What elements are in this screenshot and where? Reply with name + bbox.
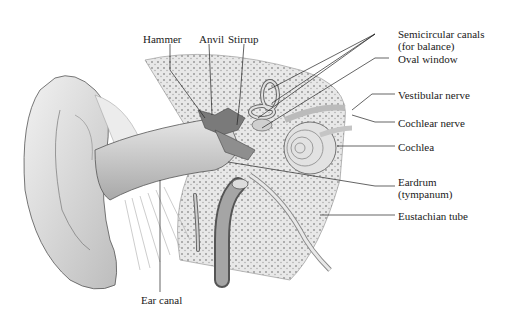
label-eustachian-tube: Eustachian tube bbox=[398, 210, 468, 222]
label-semicircular-canals-note: (for balance) bbox=[398, 40, 455, 52]
label-stirrup: Stirrup bbox=[228, 33, 259, 45]
label-ear-canal: Ear canal bbox=[141, 294, 182, 306]
label-oval-window: Oval window bbox=[398, 53, 458, 65]
label-semicircular-canals: Semicircular canals bbox=[398, 28, 484, 40]
label-cochlear-nerve: Cochlear nerve bbox=[398, 117, 465, 129]
label-anvil: Anvil bbox=[199, 33, 224, 45]
label-eardrum-note: (tympanum) bbox=[398, 188, 452, 200]
label-hammer: Hammer bbox=[143, 33, 181, 45]
label-cochlea: Cochlea bbox=[398, 141, 434, 153]
label-vestibular-nerve: Vestibular nerve bbox=[398, 89, 470, 101]
label-eardrum: Eardrum bbox=[398, 176, 436, 188]
ear-anatomy-diagram: Hammer Anvil Stirrup Semicircular canals… bbox=[0, 0, 509, 309]
